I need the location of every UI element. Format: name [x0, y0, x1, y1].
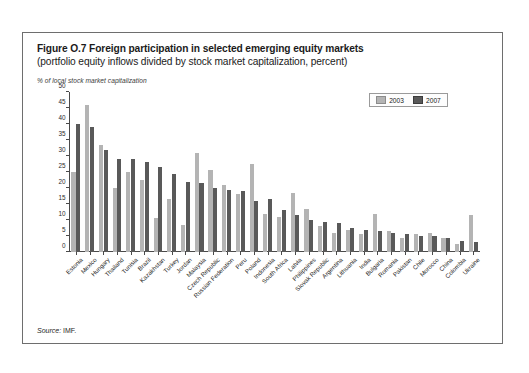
figure-subtitle: (portfolio equity inflows divided by sto…	[37, 56, 487, 69]
bar-2003	[332, 233, 336, 252]
x-tick-mark	[213, 252, 214, 255]
bar-2003	[359, 234, 363, 252]
source-label: Source:	[37, 327, 61, 334]
x-tick-mark	[281, 252, 282, 255]
bar-2003	[126, 172, 130, 252]
bar-2003	[277, 217, 281, 252]
bar-2003	[113, 188, 117, 252]
x-tick-mark	[364, 252, 365, 255]
bar-2003	[208, 170, 212, 252]
x-axis-label: Estonia	[64, 256, 84, 276]
bar-2007	[90, 127, 94, 252]
bar-2003	[250, 164, 254, 252]
bar-2003	[71, 172, 75, 252]
bar-2007	[241, 191, 245, 252]
x-tick-mark	[117, 252, 118, 255]
bar-2007	[391, 233, 395, 252]
bar-2007	[350, 228, 354, 252]
y-tick-label: 30	[58, 146, 69, 153]
x-tick-mark	[172, 252, 173, 255]
bar-group	[192, 92, 206, 252]
bar-2007	[309, 220, 313, 252]
bar-2007	[337, 223, 341, 252]
y-tick-label: 5	[62, 226, 69, 233]
y-tick-label: 10	[58, 210, 69, 217]
bar-group	[179, 92, 193, 252]
x-tick-mark	[309, 252, 310, 255]
bar-2003	[291, 193, 295, 252]
bar-2003	[400, 238, 404, 252]
bar-2003	[263, 214, 267, 252]
bar-2007	[419, 236, 423, 252]
x-tick-mark	[185, 252, 186, 255]
bar-2007	[213, 188, 217, 252]
bar-2007	[295, 215, 299, 252]
bar-group	[233, 92, 247, 252]
bar-2003	[441, 238, 445, 252]
x-tick-mark	[254, 252, 255, 255]
bar-group	[453, 92, 467, 252]
x-tick-mark	[323, 252, 324, 255]
x-tick-mark	[131, 252, 132, 255]
bar-group	[398, 92, 412, 252]
bar-2003	[373, 214, 377, 252]
x-tick-mark	[432, 252, 433, 255]
bar-2007	[432, 236, 436, 252]
bar-2007	[117, 159, 121, 252]
y-tick-label: 35	[58, 130, 69, 137]
bar-group	[124, 92, 138, 252]
x-tick-mark	[336, 252, 337, 255]
bar-2003	[428, 233, 432, 252]
x-tick-mark	[90, 252, 91, 255]
x-tick-mark	[103, 252, 104, 255]
bar-2003	[236, 194, 240, 252]
figure-container: Figure O.7 Foreign participation in sele…	[22, 32, 503, 344]
bar-2007	[199, 183, 203, 252]
bar-2007	[446, 238, 450, 252]
bar-group	[384, 92, 398, 252]
bar-2007	[172, 174, 176, 252]
bar-group	[357, 92, 371, 252]
bar-group	[412, 92, 426, 252]
bar-group	[151, 92, 165, 252]
bar-2003	[414, 234, 418, 252]
y-tick-label: 45	[58, 98, 69, 105]
source-value: IMF.	[63, 327, 76, 334]
y-tick-label: 40	[58, 114, 69, 121]
x-tick-mark	[446, 252, 447, 255]
y-axis-unit-label: % of local stock market capitalization	[37, 77, 147, 84]
plot-area: 05101520253035404550	[69, 92, 480, 252]
x-tick-mark	[391, 252, 392, 255]
x-tick-mark	[268, 252, 269, 255]
figure-title: Figure O.7 Foreign participation in sele…	[37, 43, 487, 56]
bar-2003	[455, 244, 459, 252]
bar-2007	[323, 222, 327, 252]
bar-2003	[154, 218, 158, 252]
bar-group	[206, 92, 220, 252]
bar-group	[110, 92, 124, 252]
bar-2007	[460, 241, 464, 252]
bar-group	[425, 92, 439, 252]
bar-2003	[318, 226, 322, 252]
bar-2007	[131, 159, 135, 252]
bar-2003	[140, 180, 144, 252]
x-tick-mark	[350, 252, 351, 255]
bar-2007	[158, 167, 162, 252]
bar-group	[370, 92, 384, 252]
bar-group	[247, 92, 261, 252]
bar-group	[466, 92, 480, 252]
source-note: Source: IMF.	[37, 327, 76, 334]
bar-2007	[474, 242, 478, 252]
bar-2003	[181, 225, 185, 252]
bar-group	[83, 92, 97, 252]
x-tick-mark	[377, 252, 378, 255]
bar-2007	[405, 234, 409, 252]
bar-group	[69, 92, 83, 252]
y-tick-label: 25	[58, 162, 69, 169]
bar-2003	[222, 185, 226, 252]
bar-2007	[268, 199, 272, 252]
bar-groups	[69, 92, 480, 252]
bar-2007	[76, 124, 80, 252]
bar-2007	[378, 231, 382, 252]
x-tick-mark	[144, 252, 145, 255]
